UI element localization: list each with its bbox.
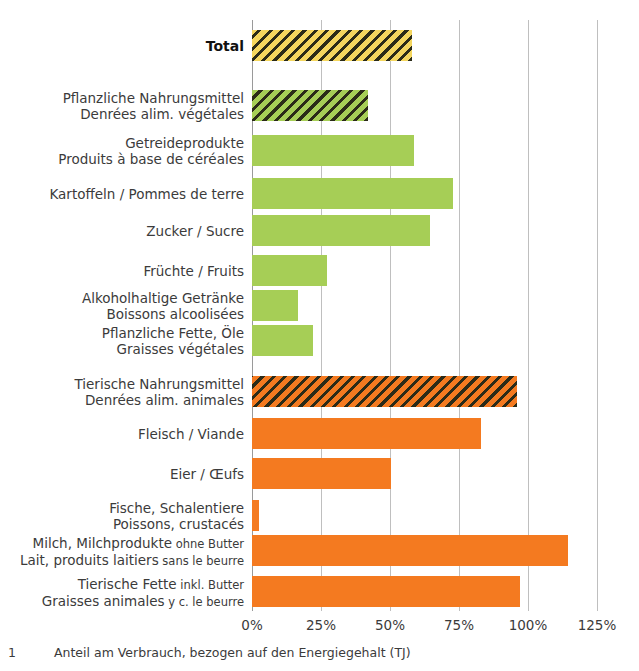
category-label-7: Pflanzliche Fette, ÖleGraisses végétales (0, 325, 244, 357)
category-label-column: TotalPflanzliche NahrungsmittelDenrées a… (0, 20, 244, 611)
bar-11 (252, 500, 259, 531)
category-label-fr: Graisses animales y c. le beurre (0, 593, 244, 610)
category-label-de: Alkoholhaltige Getränke (0, 290, 244, 306)
category-label-fr: Poissons, crustacés (0, 516, 244, 532)
category-label-de: Tierische Fette inkl. Butter (0, 576, 244, 593)
bar-4 (252, 215, 430, 246)
category-label-2: GetreideprodukteProduits à base de céréa… (0, 135, 244, 167)
category-label-fr: Lait, produits laitiers sans le beurre (0, 552, 244, 569)
category-label-0: Total (0, 37, 244, 55)
category-label-de: Früchte / Fruits (0, 263, 244, 279)
category-label-de: Tierische Nahrungsmittel (0, 376, 244, 392)
bar-5 (252, 255, 327, 286)
category-label-fr: Boissons alcoolisées (0, 306, 244, 322)
bar-6 (252, 290, 298, 321)
footnote: 1Anteil am Verbrauch, bezogen auf den En… (8, 645, 411, 660)
x-axis-ticks: 0%25%50%75%100%125% (252, 617, 597, 637)
bar-7 (252, 325, 313, 356)
x-tick-label-0: 0% (241, 617, 262, 633)
category-label-1: Pflanzliche NahrungsmittelDenrées alim. … (0, 90, 244, 122)
x-tick-label-100: 100% (509, 617, 548, 633)
category-label-de: Kartoffeln / Pommes de terre (0, 186, 244, 202)
category-label-de: Total (0, 37, 244, 55)
x-tick-label-25: 25% (306, 617, 336, 633)
category-label-13: Tierische Fette inkl. ButterGraisses ani… (0, 576, 244, 610)
category-label-12: Milch, Milchprodukte ohne ButterLait, pr… (0, 535, 244, 569)
category-label-de-qualifier: ohne Butter (172, 537, 244, 551)
x-tick-label-125: 125% (578, 617, 617, 633)
bar-8 (252, 376, 517, 407)
category-label-de: Milch, Milchprodukte ohne Butter (0, 535, 244, 552)
plot-area (252, 20, 597, 611)
bar-9 (252, 418, 481, 449)
category-label-8: Tierische NahrungsmittelDenrées alim. an… (0, 376, 244, 408)
category-label-4: Zucker / Sucre (0, 223, 244, 239)
category-label-de: Pflanzliche Nahrungsmittel (0, 90, 244, 106)
footnote-text: Anteil am Verbrauch, bezogen auf den Ene… (54, 645, 411, 660)
bar-13 (252, 576, 520, 607)
category-label-3: Kartoffeln / Pommes de terre (0, 186, 244, 202)
x-tick-label-75: 75% (444, 617, 474, 633)
category-label-de: Fleisch / Viande (0, 426, 244, 442)
category-label-fr: Produits à base de céréales (0, 151, 244, 167)
bar-0 (252, 30, 412, 61)
category-label-fr: Denrées alim. animales (0, 392, 244, 408)
category-label-de: Eier / Œufs (0, 466, 244, 482)
bar-12 (252, 535, 568, 566)
bar-chart: TotalPflanzliche NahrungsmittelDenrées a… (0, 0, 639, 671)
category-label-de-qualifier: inkl. Butter (177, 578, 244, 592)
category-label-9: Fleisch / Viande (0, 426, 244, 442)
category-label-5: Früchte / Fruits (0, 263, 244, 279)
bar-series (252, 20, 597, 611)
category-label-11: Fische, SchalentierePoissons, crustacés (0, 500, 244, 532)
x-tick-label-50: 50% (375, 617, 405, 633)
category-label-fr: Graisses végétales (0, 341, 244, 357)
category-label-10: Eier / Œufs (0, 466, 244, 482)
bar-1 (252, 90, 368, 121)
category-label-de: Zucker / Sucre (0, 223, 244, 239)
category-label-de: Getreideprodukte (0, 135, 244, 151)
category-label-de: Fische, Schalentiere (0, 500, 244, 516)
bar-2 (252, 135, 414, 166)
category-label-de: Pflanzliche Fette, Öle (0, 325, 244, 341)
gridline-125 (597, 20, 598, 611)
footnote-number: 1 (8, 645, 54, 660)
category-label-fr-qualifier: sans le beurre (159, 554, 244, 568)
bar-10 (252, 458, 391, 489)
bar-3 (252, 178, 453, 209)
category-label-fr-qualifier: y c. le beurre (165, 595, 244, 609)
category-label-fr: Denrées alim. végétales (0, 106, 244, 122)
category-label-6: Alkoholhaltige GetränkeBoissons alcoolis… (0, 290, 244, 322)
